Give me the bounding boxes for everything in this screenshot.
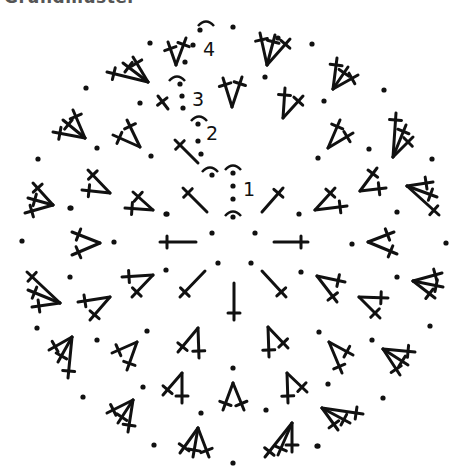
dc-fan-3-icon — [413, 269, 443, 298]
round-marker-3: 3 — [169, 77, 204, 111]
chain-dot — [394, 209, 399, 214]
chain-dot — [263, 407, 268, 412]
dc-increase-v-icon — [220, 383, 247, 410]
slip-stitch-arc-icon — [202, 168, 218, 173]
dc-fan-3-icon — [25, 183, 53, 217]
round-number-label: 3 — [192, 88, 204, 110]
center-dot — [209, 230, 214, 235]
chain-dot — [197, 27, 202, 32]
dc-fan-3-icon — [322, 407, 363, 430]
chain-dot — [94, 337, 99, 342]
dc-increase-v-icon — [178, 328, 205, 358]
round-number-label: 4 — [203, 38, 215, 60]
double-crochet-icon — [160, 236, 196, 248]
chain-dot — [298, 269, 303, 274]
dc-increase-v-icon — [263, 327, 288, 357]
double-crochet-icon — [228, 283, 240, 320]
chain-dot — [230, 24, 235, 29]
dc-increase-v-icon — [112, 342, 137, 370]
chain-dot — [147, 40, 152, 45]
dc-increase-v-icon — [368, 229, 397, 257]
chain-dot — [380, 395, 385, 400]
chain-dot — [198, 410, 203, 415]
chain-dot — [148, 153, 153, 158]
chain-dot — [94, 145, 99, 150]
double-crochet-icon — [183, 188, 207, 212]
chain-dot — [321, 98, 326, 103]
chain-dot — [182, 59, 187, 64]
dc-fan-3-icon — [390, 113, 413, 157]
stitch-symbols — [25, 33, 443, 457]
dc-increase-v-icon — [360, 168, 386, 195]
slip-stitch-arc-icon — [198, 22, 214, 27]
dc-increase-v-icon — [72, 229, 100, 258]
chain-dot — [230, 214, 235, 219]
chain-dot — [366, 146, 371, 151]
chain-dot — [190, 42, 195, 47]
chain-dot — [209, 172, 214, 177]
round-marker-2: 2 — [191, 117, 218, 178]
chain-dot — [163, 267, 168, 272]
chain-dot — [325, 381, 330, 386]
double-crochet-icon — [180, 271, 205, 297]
chain-dot — [80, 394, 85, 399]
round-number-label: 2 — [206, 122, 218, 144]
dc-increase-v-icon — [78, 295, 110, 320]
center-dot — [248, 260, 253, 265]
dc-fan-3-icon — [107, 57, 148, 82]
center-dot — [252, 230, 257, 235]
dc-increase-v-icon — [279, 88, 303, 118]
dc-fan-3-icon — [53, 110, 85, 139]
double-crochet-icon — [262, 271, 286, 297]
chain-dot — [198, 151, 203, 156]
chain-dot — [68, 205, 73, 210]
chain-dot — [179, 93, 184, 98]
dc-increase-v-icon — [113, 120, 140, 147]
round-number-label: 1 — [243, 178, 255, 200]
chain-dot — [140, 384, 145, 389]
chain-dot — [151, 442, 156, 447]
center-dot — [215, 260, 220, 265]
dc-fan-3-icon — [107, 400, 135, 432]
double-crochet-icon — [262, 188, 283, 212]
double-crochet-icon — [274, 236, 308, 248]
chain-dot — [381, 87, 386, 92]
dc-fan-3-icon — [383, 345, 415, 375]
dc-increase-v-icon — [163, 373, 188, 403]
double-crochet-icon — [175, 140, 198, 163]
round-marker-1: 1 — [225, 166, 255, 220]
dc-increase-v-icon — [125, 192, 153, 214]
dc-increase-v-icon — [282, 373, 307, 403]
chain-dot — [67, 274, 72, 279]
chain-dot — [19, 238, 24, 243]
dc-increase-v-icon — [82, 170, 110, 197]
chain-dot — [35, 156, 40, 161]
dc-increase-v-icon — [317, 275, 345, 302]
dc-fan-3-icon — [330, 58, 358, 89]
chain-dot — [429, 156, 434, 161]
chain-dot — [443, 240, 448, 245]
chain-dot — [195, 121, 200, 126]
dc-increase-v-icon — [219, 77, 245, 107]
dc-fan-3-icon — [407, 177, 439, 215]
chain-dot — [144, 328, 149, 333]
dc-fan-3-icon — [256, 33, 290, 65]
chain-dot — [369, 337, 374, 342]
chain-dot — [195, 138, 200, 143]
dc-increase-v-icon — [329, 342, 353, 373]
dc-increase-v-icon — [122, 271, 153, 297]
center-ring-dots — [209, 230, 257, 265]
chain-dot — [309, 41, 314, 46]
chain-dot — [296, 211, 301, 216]
slip-stitch-arc-icon — [225, 166, 241, 171]
chain-dot — [230, 365, 235, 370]
dc-increase-v-icon — [359, 292, 388, 318]
chain-dot — [275, 35, 280, 40]
chain-dot — [83, 85, 88, 90]
slip-stitch-arc-icon — [169, 77, 185, 82]
chain-dot — [316, 329, 321, 334]
chain-dot — [262, 74, 267, 79]
chain-dot — [394, 274, 399, 279]
chain-dot — [230, 170, 235, 175]
chain-dot — [177, 81, 182, 86]
